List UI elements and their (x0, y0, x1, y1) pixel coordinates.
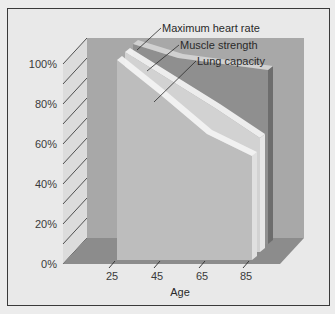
x-axis-title: Age (170, 286, 190, 298)
y-tick-label: 60% (35, 138, 57, 150)
y-tick-label: 40% (35, 178, 57, 190)
label-lung-capacity: Lung capacity (197, 55, 265, 67)
y-tick-label: 0% (41, 258, 57, 270)
series-layers (117, 40, 273, 260)
label-maximum-heart-rate: Maximum heart rate (162, 22, 260, 34)
x-axis-labels: 25456585 (106, 270, 252, 282)
chart-3d-area: 0%20%40%60%80%100% 25456585 Age Maximum … (0, 0, 335, 314)
y-axis-labels: 0%20%40%60%80%100% (29, 58, 57, 270)
x-tick-label: 65 (196, 270, 208, 282)
label-muscle-strength: Muscle strength (180, 39, 258, 51)
y-tick-label: 20% (35, 218, 57, 230)
x-tick-label: 45 (151, 270, 163, 282)
y-tick-label: 80% (35, 98, 57, 110)
x-tick-label: 25 (106, 270, 118, 282)
y-tick-label: 100% (29, 58, 57, 70)
x-tick-label: 85 (240, 270, 252, 282)
